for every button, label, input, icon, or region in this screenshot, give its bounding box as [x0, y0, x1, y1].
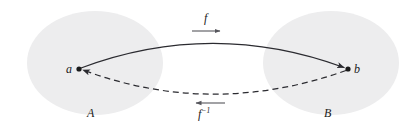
- function-inverse-diagram: A B a b f f−1: [0, 0, 419, 131]
- point-label-a: a: [66, 63, 72, 75]
- point-dot-b: [345, 66, 350, 71]
- function-label-f: f: [204, 12, 207, 24]
- set-label-b: B: [324, 107, 331, 119]
- set-label-a: A: [87, 107, 94, 119]
- point-label-b: b: [354, 63, 360, 75]
- function-label-f-inverse: f−1: [198, 108, 210, 120]
- point-dot-a: [76, 66, 81, 71]
- function-label-f-inverse-exponent: −1: [201, 106, 210, 115]
